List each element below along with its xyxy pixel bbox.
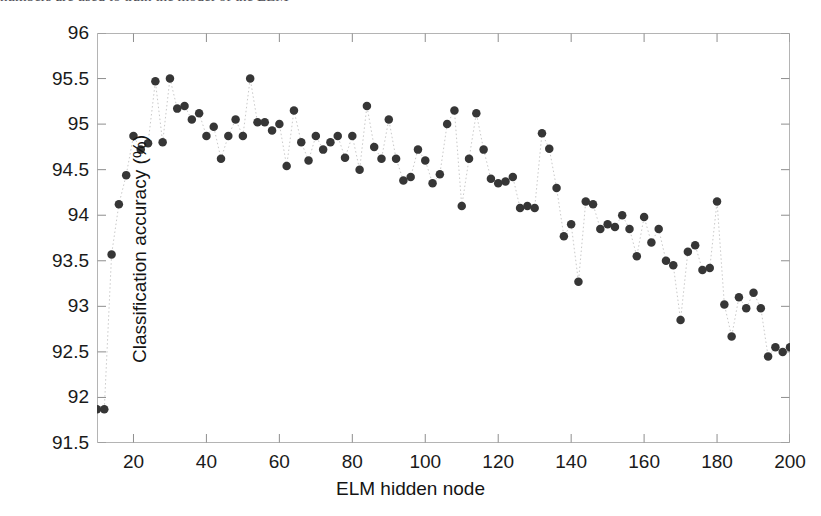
data-point	[567, 220, 576, 229]
data-point	[727, 332, 736, 341]
data-point	[516, 204, 525, 213]
y-axis-title: Classification accuracy (%)	[129, 99, 151, 399]
data-point	[538, 129, 547, 138]
data-point	[173, 104, 182, 113]
data-point	[706, 264, 715, 273]
data-point	[457, 202, 466, 211]
data-point	[749, 288, 758, 297]
data-point	[698, 266, 707, 275]
data-point	[224, 132, 233, 141]
axis-box	[98, 34, 790, 443]
data-point	[297, 138, 306, 147]
data-point	[662, 257, 671, 266]
data-point	[107, 250, 116, 259]
axis-tick-marks	[98, 33, 791, 443]
data-point	[764, 352, 773, 361]
data-point	[618, 211, 627, 220]
data-point	[465, 154, 474, 163]
data-point	[195, 109, 204, 118]
data-point	[611, 223, 620, 232]
data-point	[333, 132, 342, 141]
series-connecting-line	[97, 79, 790, 410]
data-point	[348, 132, 357, 141]
data-point	[436, 170, 445, 179]
data-point	[341, 154, 350, 163]
data-point	[180, 102, 189, 111]
plot-area	[97, 33, 790, 443]
data-point	[421, 156, 430, 165]
data-point	[290, 106, 299, 115]
data-point	[268, 126, 277, 134]
x-tick-label: 200	[774, 451, 806, 473]
data-point	[757, 304, 766, 313]
data-point	[377, 154, 386, 163]
data-point	[633, 252, 642, 261]
data-point	[472, 109, 481, 118]
data-point	[443, 120, 452, 129]
data-point	[275, 120, 284, 129]
data-point	[742, 304, 751, 313]
data-point	[363, 102, 372, 111]
data-point	[735, 293, 744, 302]
data-point	[115, 200, 124, 209]
data-point	[414, 145, 423, 154]
data-point	[450, 106, 459, 115]
data-point	[355, 165, 364, 174]
data-point	[282, 162, 291, 171]
data-point	[428, 179, 437, 188]
data-point	[253, 118, 261, 127]
data-point	[188, 115, 197, 124]
data-point	[720, 300, 729, 309]
data-point	[523, 202, 532, 211]
data-point	[530, 204, 539, 213]
figure-scatter-plot-elm-accuracy: numbers are used to train the model of t…	[0, 0, 821, 516]
data-point	[209, 123, 218, 132]
data-point	[399, 176, 408, 185]
data-point	[494, 179, 503, 188]
x-tick-label: 120	[482, 451, 514, 473]
data-point	[392, 154, 401, 163]
x-tick-label: 160	[628, 451, 660, 473]
data-point	[231, 115, 240, 124]
data-point	[151, 77, 160, 86]
data-point	[239, 132, 248, 141]
data-point	[312, 132, 321, 141]
data-point	[385, 115, 394, 124]
data-point	[603, 220, 612, 229]
x-tick-label: 80	[342, 451, 363, 473]
data-point	[669, 261, 678, 270]
plot-svg	[97, 33, 790, 443]
data-point	[654, 225, 663, 234]
data-point	[326, 138, 335, 147]
data-point	[246, 74, 255, 83]
data-point	[713, 197, 722, 206]
data-point	[676, 316, 685, 325]
data-point	[509, 173, 518, 182]
data-point	[691, 241, 700, 250]
data-point	[370, 143, 379, 152]
data-point	[166, 74, 175, 83]
data-point	[640, 213, 649, 222]
data-point	[319, 145, 328, 154]
x-tick-label: 60	[269, 451, 290, 473]
data-point	[202, 132, 211, 141]
data-point	[560, 232, 569, 241]
data-point	[647, 238, 656, 247]
x-tick-label: 100	[409, 451, 441, 473]
data-point	[589, 200, 598, 209]
data-point	[625, 225, 634, 234]
data-point	[261, 118, 270, 127]
data-point	[684, 247, 693, 256]
data-point	[574, 277, 583, 286]
data-point	[552, 184, 561, 193]
data-point	[596, 225, 605, 234]
data-point	[487, 175, 496, 184]
x-tick-label: 20	[123, 451, 144, 473]
data-point	[304, 156, 313, 165]
data-point	[406, 173, 415, 182]
series-data-points	[97, 74, 790, 413]
x-tick-label: 140	[555, 451, 587, 473]
data-point	[545, 144, 554, 153]
data-point	[582, 197, 591, 206]
x-axis-title: ELM hidden node	[0, 478, 821, 500]
